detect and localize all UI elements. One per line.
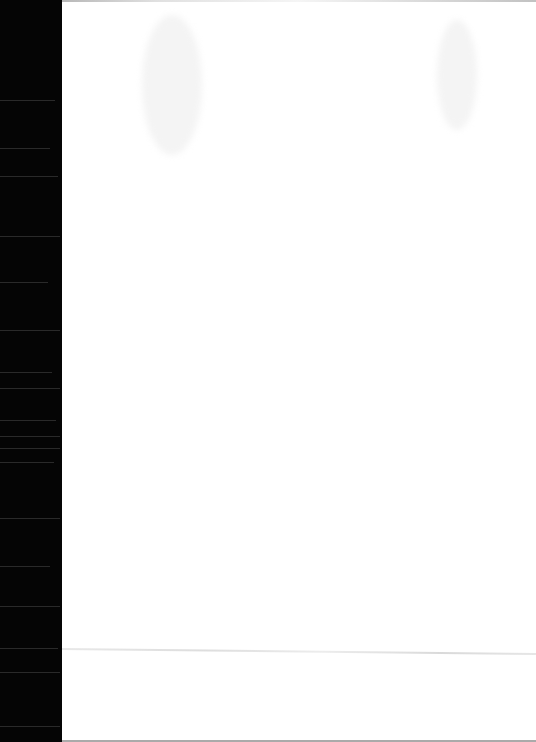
blank-page — [62, 0, 536, 742]
scan-streak — [0, 330, 60, 331]
scan-streak — [0, 672, 60, 673]
scan-streak — [0, 566, 50, 567]
scan-streak — [0, 436, 60, 437]
bleed-through-mark — [142, 15, 202, 155]
scan-streak — [0, 236, 60, 237]
scan-streak — [0, 648, 58, 649]
scan-streak — [0, 388, 60, 389]
scan-streak — [0, 518, 60, 519]
scan-streak — [0, 462, 54, 463]
scan-streak — [0, 606, 60, 607]
page-top-edge — [62, 0, 536, 2]
scan-streak — [0, 726, 60, 727]
bleed-through-mark — [437, 20, 477, 130]
scan-streak — [0, 176, 58, 177]
scan-streak — [0, 282, 48, 283]
scan-streak — [0, 372, 52, 373]
scan-streak — [0, 448, 60, 449]
scan-streak — [0, 148, 50, 149]
scan-streak — [0, 420, 56, 421]
scanner-edge — [0, 0, 62, 742]
scan-streak — [0, 100, 55, 101]
